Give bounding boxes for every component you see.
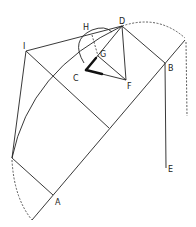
label-C: C [73,74,79,83]
dashed-arc-bottom [12,160,32,220]
label-H: H [83,23,89,32]
thick-C-F [86,70,102,74]
baseline [32,40,185,220]
line-B-E [165,63,166,168]
label-F: F [127,82,132,91]
label-I: I [23,42,25,51]
label-G: G [100,50,106,59]
label-D: D [119,17,125,26]
line-left-A [12,158,53,195]
geometry-diagram: D H I G C F B E A [0,0,196,227]
line-I-mid [26,51,109,128]
dashed-H-G [92,35,98,56]
label-E: E [168,165,173,174]
label-A: A [55,198,61,207]
line-D-B [122,26,165,63]
dashed-arc-top [122,22,185,38]
thick-C-G [86,58,96,70]
label-B: B [168,64,174,73]
line-I-left [12,51,26,158]
dashed-vertical-right [186,42,187,116]
line-I-D [26,26,122,51]
line-D-F [122,26,126,80]
